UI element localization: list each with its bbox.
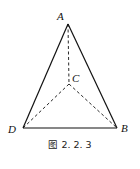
vertex-label-b: B	[121, 122, 128, 134]
edge-CD-hidden	[23, 84, 69, 128]
vertex-label-a: A	[56, 10, 64, 22]
edge-CB-hidden	[69, 84, 117, 128]
tetrahedron-figure: A C D B 图 2. 2. 3	[0, 0, 140, 169]
vertex-label-c: C	[72, 72, 80, 84]
edge-AD	[23, 24, 68, 128]
figure-caption: 图 2. 2. 3	[48, 139, 91, 150]
vertex-label-d: D	[7, 123, 16, 135]
edge-AC-hidden	[68, 24, 69, 84]
